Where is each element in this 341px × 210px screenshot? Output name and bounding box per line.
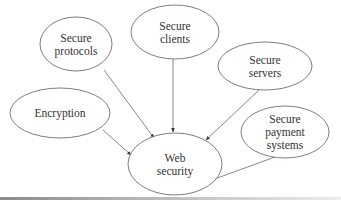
node-label: Secure	[269, 113, 300, 125]
node-label: Web	[165, 152, 186, 164]
node-protocols: Secureprotocols	[40, 17, 112, 71]
node-label: Secure	[159, 20, 190, 32]
node-label: Encryption	[34, 107, 85, 120]
bottom-divider	[0, 197, 341, 200]
node-label: protocols	[55, 45, 98, 58]
node-encryption: Encryption	[10, 88, 110, 138]
node-label: payment	[265, 126, 305, 139]
node-payment: Securepaymentsystems	[241, 106, 329, 158]
edge-protocols-to-web	[104, 70, 154, 138]
web-security-diagram: SecureprotocolsSecureclientsSecureserver…	[0, 0, 341, 210]
node-web: Websecurity	[128, 133, 222, 195]
edge-encryption-to-web	[103, 130, 131, 155]
node-clients: Secureclients	[131, 5, 219, 59]
node-label: security	[157, 165, 194, 178]
node-label: clients	[160, 33, 191, 45]
nodes: SecureprotocolsSecureclientsSecureserver…	[10, 5, 329, 195]
node-servers: Secureservers	[218, 42, 312, 90]
node-label: Secure	[249, 54, 280, 66]
node-label: Secure	[60, 32, 91, 44]
node-label: servers	[249, 67, 282, 79]
node-label: systems	[267, 139, 304, 152]
